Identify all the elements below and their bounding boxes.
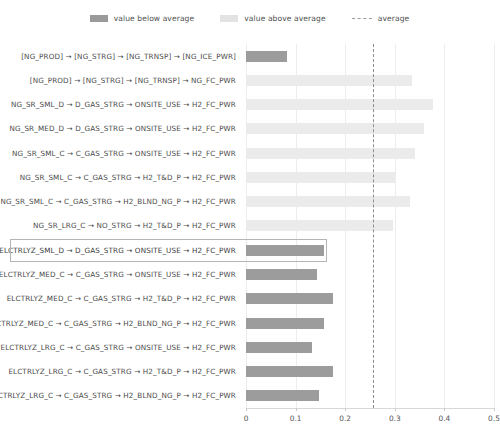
- x-axis-tick-label: 0: [244, 414, 249, 423]
- y-axis-label-row[interactable]: NG_SR_MED_D → D_GAS_STRG → ONSITE_USE → …: [0, 117, 240, 141]
- legend-label-average: average: [378, 14, 410, 23]
- y-axis-label-text: [NG_PROD] → [NG_STRG] → [NG_TRNSP] → [NG…: [21, 52, 240, 61]
- bar-row[interactable]: [246, 93, 494, 117]
- bar[interactable]: [246, 99, 433, 110]
- bar-row[interactable]: [246, 262, 494, 286]
- x-axis-tick: [246, 408, 247, 411]
- legend-label-below-average: value below average: [114, 14, 195, 23]
- bar-row[interactable]: [246, 238, 494, 262]
- y-axis-label-text: ELCTRLYZ_LRG_C → C_GAS_STRG → ONSITE_USE…: [1, 343, 240, 352]
- bar-row[interactable]: [246, 44, 494, 68]
- y-axis-label-text: [NG_PROD] → [NG_STRG] → [NG_TRNSP] → NG_…: [30, 76, 240, 85]
- y-axis-label-row[interactable]: NG_SR_SML_C → C_GAS_STRG → ONSITE_USE → …: [0, 141, 240, 165]
- bar-row[interactable]: [246, 335, 494, 359]
- bar-row[interactable]: [246, 384, 494, 408]
- y-axis-label-row[interactable]: [NG_PROD] → [NG_STRG] → [NG_TRNSP] → NG_…: [0, 68, 240, 92]
- legend-label-above-average: value above average: [244, 14, 325, 23]
- y-axis-label-row[interactable]: ELCTRLYZ_LRG_C → C_GAS_STRG → H2_BLND_NG…: [0, 384, 240, 408]
- legend-item-value-above-average[interactable]: value above average: [220, 14, 325, 23]
- x-axis-tick: [395, 408, 396, 411]
- bar[interactable]: [246, 75, 412, 86]
- bar[interactable]: [246, 220, 393, 231]
- below-average-swatch-icon: [90, 15, 108, 22]
- x-axis-tick: [444, 408, 445, 411]
- average-dashed-line-icon: [352, 18, 372, 19]
- y-axis-label-text: ELCTRLYZ_MED_C → C_GAS_STRG → ONSITE_USE…: [0, 270, 240, 279]
- y-axis-label-text: ELCTRLYZ_MED_C → C_GAS_STRG → H2_BLND_NG…: [0, 319, 240, 328]
- bar-row[interactable]: [246, 287, 494, 311]
- legend-item-value-below-average[interactable]: value below average: [90, 14, 195, 23]
- y-axis-label-row[interactable]: ELCTRLYZ_SML_D → D_GAS_STRG → ONSITE_USE…: [0, 238, 240, 262]
- x-axis-tick-label: 0.5: [488, 414, 500, 423]
- bar-row[interactable]: [246, 359, 494, 383]
- bar[interactable]: [246, 366, 333, 377]
- bar-row[interactable]: [246, 117, 494, 141]
- plot-area: [246, 44, 494, 408]
- x-axis-tick: [296, 408, 297, 411]
- y-axis-label-text: ELCTRLYZ_MED_C → C_GAS_STRG → H2_T&D_P →…: [7, 294, 240, 303]
- bar[interactable]: [246, 51, 287, 62]
- y-axis-label-text: NG_SR_SML_C → C_GAS_STRG → ONSITE_USE → …: [12, 149, 240, 158]
- bar[interactable]: [246, 342, 312, 353]
- y-axis-label-row[interactable]: ELCTRLYZ_LRG_C → C_GAS_STRG → ONSITE_USE…: [0, 335, 240, 359]
- x-axis-tick-label: 0.2: [339, 414, 351, 423]
- bar[interactable]: [246, 123, 424, 134]
- x-axis-tick: [494, 408, 495, 411]
- bar[interactable]: [246, 245, 324, 256]
- y-axis-label-row[interactable]: NG_SR_SML_C → C_GAS_STRG → H2_BLND_NG_P …: [0, 190, 240, 214]
- y-axis-labels: [NG_PROD] → [NG_STRG] → [NG_TRNSP] → [NG…: [0, 44, 240, 408]
- x-axis-line: [246, 408, 494, 409]
- y-axis-label-text: ELCTRLYZ_SML_D → D_GAS_STRG → ONSITE_USE…: [0, 246, 240, 255]
- y-axis-label-text: NG_SR_LRG_C → NO_STRG → H2_T&D_P → H2_FC…: [33, 221, 240, 230]
- y-axis-label-row[interactable]: NG_SR_LRG_C → NO_STRG → H2_T&D_P → H2_FC…: [0, 214, 240, 238]
- y-axis-label-row[interactable]: [NG_PROD] → [NG_STRG] → [NG_TRNSP] → [NG…: [0, 44, 240, 68]
- y-axis-label-text: ELCTRLYZ_LRG_C → C_GAS_STRG → H2_T&D_P →…: [8, 367, 240, 376]
- x-axis-tick-label: 0.1: [290, 414, 302, 423]
- bar-row[interactable]: [246, 311, 494, 335]
- y-axis-label-text: NG_SR_SML_C → C_GAS_STRG → H2_BLND_NG_P …: [0, 197, 240, 206]
- y-axis-label-text: ELCTRLYZ_LRG_C → C_GAS_STRG → H2_BLND_NG…: [0, 391, 240, 400]
- bar[interactable]: [246, 172, 395, 183]
- bar[interactable]: [246, 148, 415, 159]
- y-axis-label-text: NG_SR_MED_D → D_GAS_STRG → ONSITE_USE → …: [9, 124, 240, 133]
- y-axis-label-row[interactable]: NG_SR_SML_C → C_GAS_STRG → H2_T&D_P → H2…: [0, 165, 240, 189]
- bar-row[interactable]: [246, 165, 494, 189]
- bar-row[interactable]: [246, 68, 494, 92]
- x-axis: 00.10.20.30.40.5: [246, 408, 494, 434]
- average-reference-line: [373, 44, 374, 408]
- y-axis-label-row[interactable]: ELCTRLYZ_MED_C → C_GAS_STRG → H2_BLND_NG…: [0, 311, 240, 335]
- y-axis-label-text: NG_SR_SML_D → D_GAS_STRG → ONSITE_USE → …: [11, 100, 240, 109]
- bar-row[interactable]: [246, 214, 494, 238]
- bar-row[interactable]: [246, 141, 494, 165]
- bar[interactable]: [246, 269, 317, 280]
- bar[interactable]: [246, 293, 333, 304]
- y-axis-label-text: NG_SR_SML_C → C_GAS_STRG → H2_T&D_P → H2…: [20, 173, 240, 182]
- x-axis-tick: [345, 408, 346, 411]
- y-axis-label-row[interactable]: ELCTRLYZ_MED_C → C_GAS_STRG → H2_T&D_P →…: [0, 287, 240, 311]
- bar[interactable]: [246, 390, 319, 401]
- x-axis-tick-label: 0.3: [389, 414, 401, 423]
- above-average-swatch-icon: [220, 15, 238, 22]
- bar-row[interactable]: [246, 190, 494, 214]
- bar[interactable]: [246, 196, 410, 207]
- y-axis-label-row[interactable]: ELCTRLYZ_MED_C → C_GAS_STRG → ONSITE_USE…: [0, 262, 240, 286]
- bar[interactable]: [246, 318, 324, 329]
- y-axis-label-row[interactable]: ELCTRLYZ_LRG_C → C_GAS_STRG → H2_T&D_P →…: [0, 359, 240, 383]
- y-axis-label-row[interactable]: NG_SR_SML_D → D_GAS_STRG → ONSITE_USE → …: [0, 93, 240, 117]
- legend-item-average[interactable]: average: [352, 14, 410, 23]
- x-axis-tick-label: 0.4: [439, 414, 451, 423]
- gridline-0.5: [494, 44, 495, 408]
- chart-legend: value below average value above average …: [0, 9, 499, 27]
